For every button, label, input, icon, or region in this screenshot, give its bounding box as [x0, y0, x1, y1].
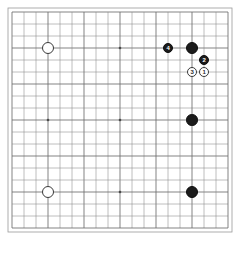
go-board-grid[interactable]: [0, 0, 244, 255]
stone-move-number: 1: [202, 69, 205, 75]
star-point: [119, 191, 122, 194]
stone-white[interactable]: [42, 42, 54, 54]
stone-move-number: 4: [166, 45, 169, 51]
stone-black[interactable]: [186, 186, 198, 198]
star-point: [119, 119, 122, 122]
stone-black[interactable]: [186, 114, 198, 126]
star-point: [47, 119, 50, 122]
stone-white[interactable]: [42, 186, 54, 198]
star-point: [119, 47, 122, 50]
stone-move-number: 2: [202, 57, 205, 63]
go-board-diagram: 4231: [0, 0, 244, 255]
stone-move-number: 3: [190, 69, 193, 75]
